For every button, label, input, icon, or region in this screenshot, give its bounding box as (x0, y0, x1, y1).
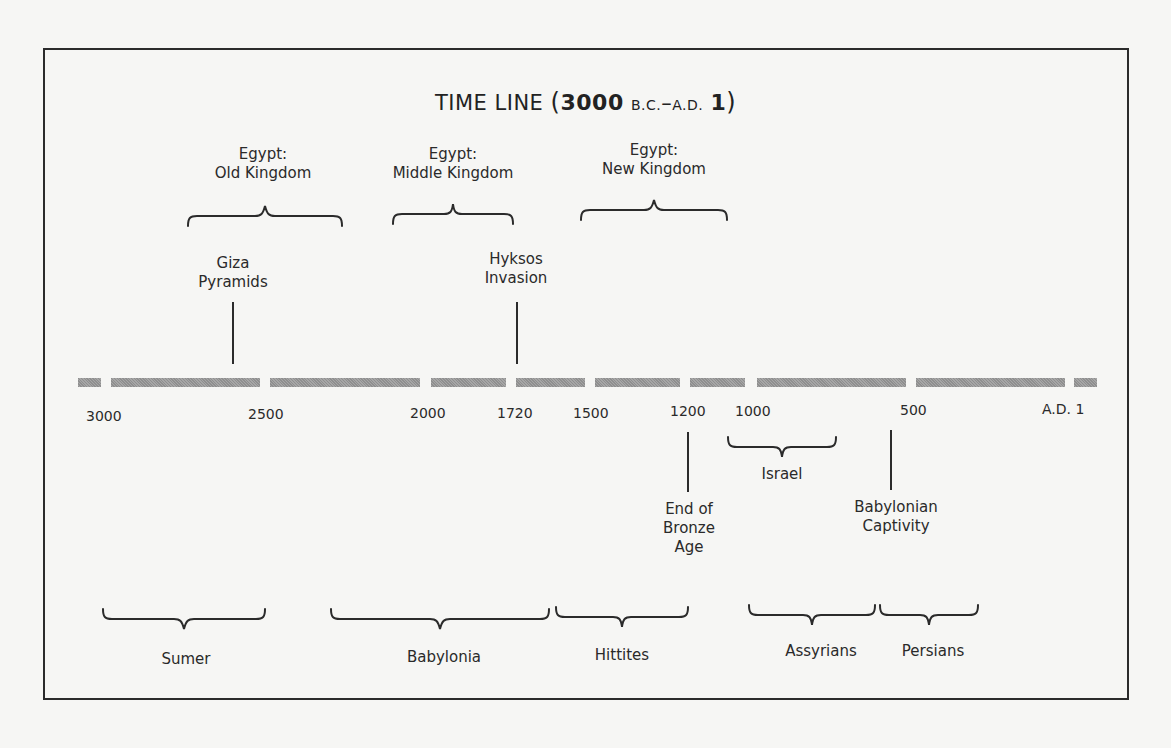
event-label-line: Giza (198, 254, 267, 273)
title-end-year: 1 (710, 90, 726, 115)
event-label-line: Captivity (854, 517, 938, 536)
timeline-segment (690, 378, 745, 387)
timeline-segment (916, 378, 1065, 387)
timeline-segment (757, 378, 906, 387)
period-hittites: Hittites (595, 646, 649, 665)
title-end-era: A.D. (672, 97, 703, 113)
event-marker-hyksos (516, 302, 518, 364)
title-start-year: 3000 (560, 90, 623, 115)
event-label-line: Bronze (663, 519, 715, 538)
event-label-line: End of (663, 500, 715, 519)
brace-egypt-old-kingdom (187, 204, 343, 228)
event-label-line: Invasion (485, 269, 548, 288)
title-dash: – (661, 91, 672, 115)
period-sumer: Sumer (161, 650, 210, 669)
diagram-title: TIME LINE (3000 B.C.–A.D. 1) (0, 88, 1171, 116)
title-start-era: B.C. (631, 97, 661, 113)
period-egypt-new-kingdom: Egypt: New Kingdom (602, 141, 706, 179)
brace-persians (879, 604, 979, 628)
event-label-line: Pyramids (198, 273, 267, 292)
period-label-line: Middle Kingdom (393, 164, 514, 183)
period-label-line: Egypt: (602, 141, 706, 160)
title-text: TIME LINE (435, 91, 543, 115)
period-label-line: Old Kingdom (215, 164, 312, 183)
timeline-segment (78, 378, 101, 387)
tick-3000: 3000 (86, 408, 122, 424)
event-label-line: Babylonian (854, 498, 938, 517)
title-open-paren: ( (551, 88, 561, 116)
event-hyksos-invasion: Hyksos Invasion (485, 250, 548, 288)
event-babylonian-captivity: Babylonian Captivity (854, 498, 938, 536)
event-marker-giza (232, 302, 234, 364)
timeline-segment (595, 378, 680, 387)
brace-hittites (555, 606, 689, 630)
period-egypt-middle-kingdom: Egypt: Middle Kingdom (393, 145, 514, 183)
tick-1200: 1200 (670, 403, 706, 419)
period-egypt-old-kingdom: Egypt: Old Kingdom (215, 145, 312, 183)
event-marker-babylonian-captivity (890, 430, 892, 490)
tick-2000: 2000 (410, 405, 446, 421)
title-close-paren: ) (726, 88, 736, 116)
tick-2500: 2500 (248, 406, 284, 422)
tick-500: 500 (900, 402, 927, 418)
timeline-segment (431, 378, 506, 387)
tick-ad-1: A.D. 1 (1042, 401, 1084, 417)
event-label-line: Hyksos (485, 250, 548, 269)
brace-assyrians (748, 604, 876, 628)
event-giza-pyramids: Giza Pyramids (198, 254, 267, 292)
timeline-segment (111, 378, 260, 387)
event-end-of-bronze-age: End of Bronze Age (663, 500, 715, 557)
period-label-line: Egypt: (215, 145, 312, 164)
timeline-segment (1074, 378, 1097, 387)
tick-1720: 1720 (497, 405, 533, 421)
diagram-frame (43, 48, 1129, 700)
period-babylonia: Babylonia (407, 648, 481, 667)
period-persians: Persians (902, 642, 964, 661)
period-israel: Israel (762, 465, 803, 484)
brace-sumer (102, 608, 266, 632)
tick-1500: 1500 (573, 405, 609, 421)
brace-babylonia (330, 608, 550, 632)
brace-egypt-middle-kingdom (392, 202, 514, 226)
period-label-line: New Kingdom (602, 160, 706, 179)
period-label-line: Egypt: (393, 145, 514, 164)
event-marker-bronze-age (687, 432, 689, 492)
timeline-segment (270, 378, 420, 387)
brace-egypt-new-kingdom (580, 198, 728, 222)
tick-1000: 1000 (735, 403, 771, 419)
brace-israel (727, 436, 837, 460)
timeline-segment (516, 378, 585, 387)
event-label-line: Age (663, 538, 715, 557)
period-assyrians: Assyrians (785, 642, 857, 661)
